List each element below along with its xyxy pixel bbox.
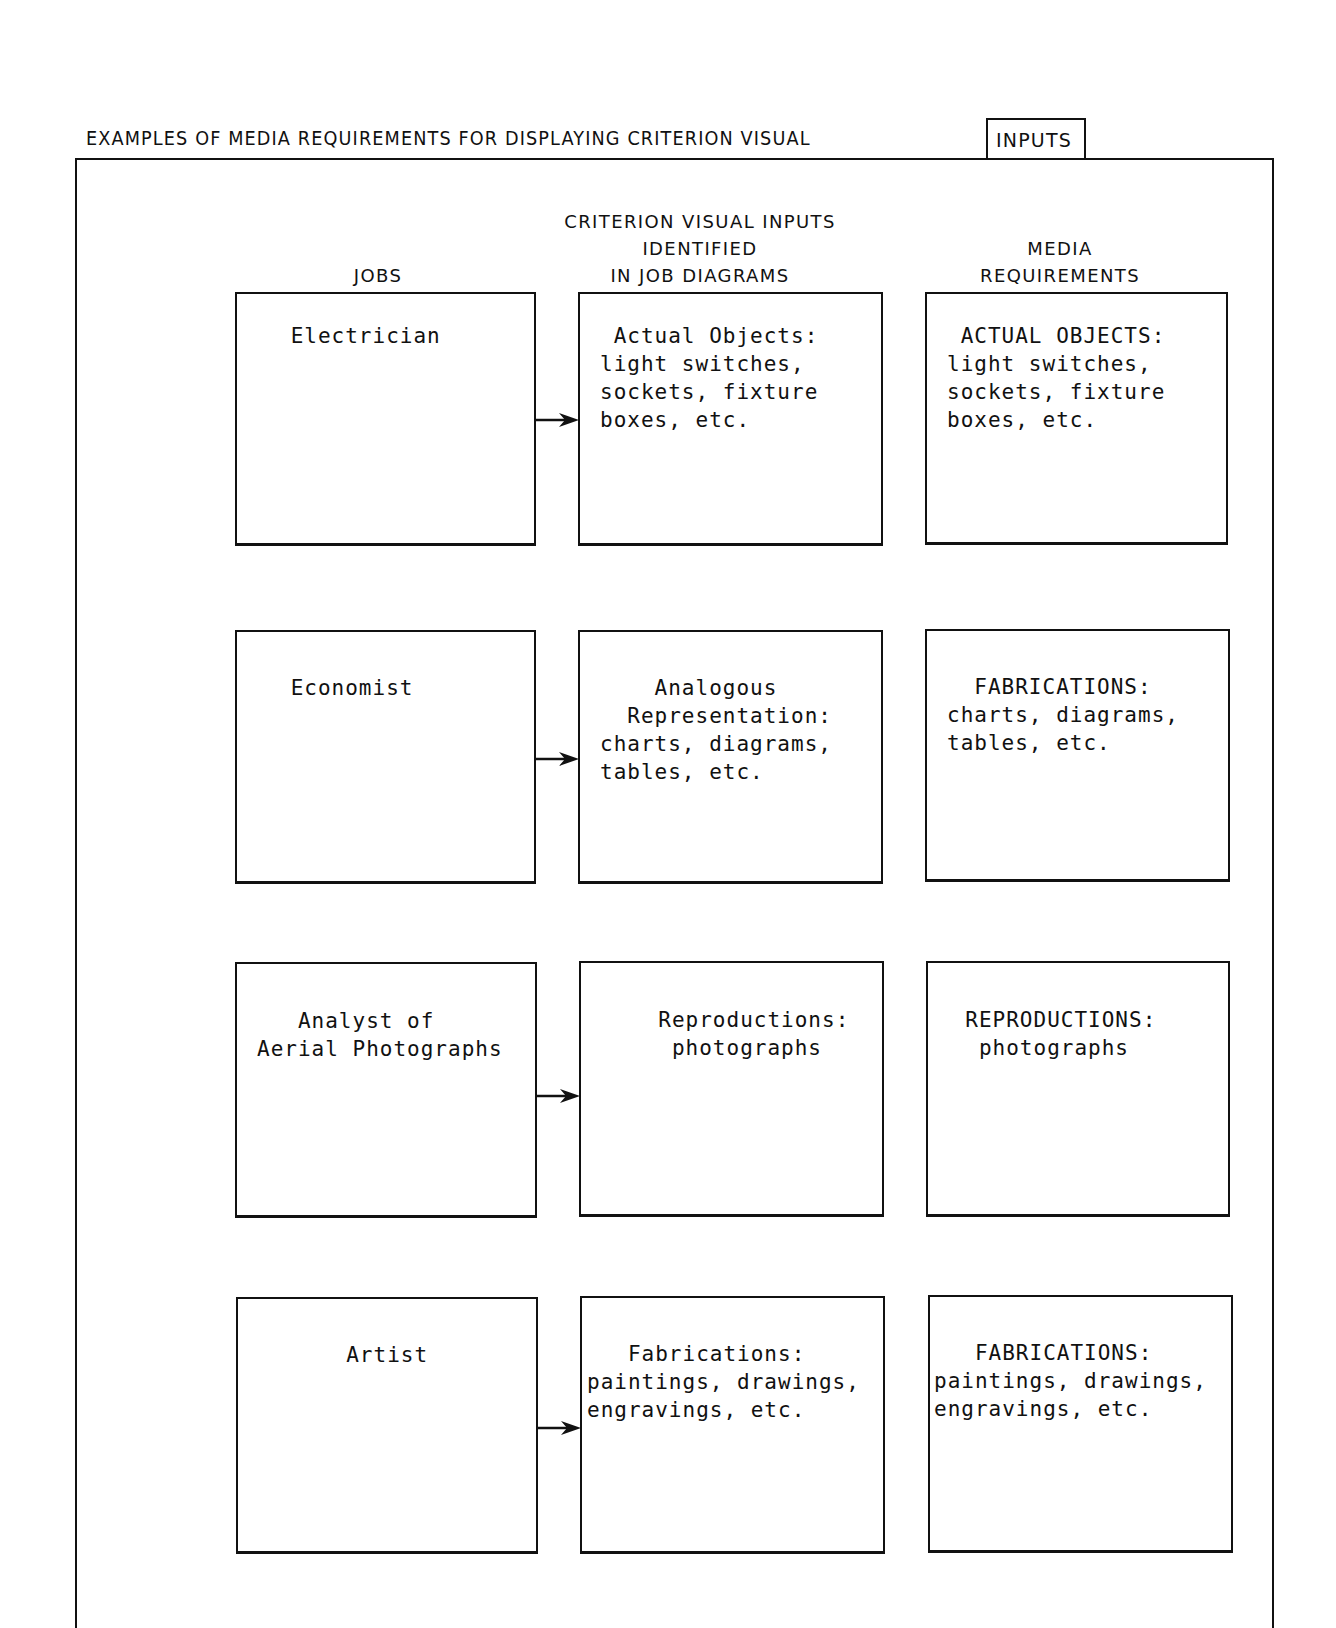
job-label: Analyst of Aerial Photographs (257, 1007, 503, 1063)
arrow-right-icon (535, 752, 579, 766)
criterion-text: Analogous Representation: charts, diagra… (600, 674, 832, 786)
title-boxed-word: INPUTS (986, 118, 1086, 158)
criterion-box: Actual Objects: light switches, sockets,… (578, 292, 883, 546)
page-title: EXAMPLES OF MEDIA REQUIREMENTS FOR DISPL… (86, 127, 811, 149)
criterion-text: Reproductions: photographs (631, 1006, 849, 1062)
job-box: Electrician (235, 292, 536, 546)
criterion-box: Reproductions: photographs (579, 961, 884, 1217)
job-label: Economist (277, 674, 413, 702)
column-header-jobs-label: JOBS (354, 265, 403, 286)
criterion-text: Fabrications: paintings, drawings, engra… (587, 1340, 860, 1424)
job-box: Economist (235, 630, 536, 884)
arrow-right-icon (537, 1421, 581, 1435)
criterion-text: Actual Objects: light switches, sockets,… (600, 322, 818, 434)
column-header-media: MEDIA REQUIREMENTS (935, 235, 1185, 289)
job-label: Artist (278, 1341, 428, 1369)
job-box: Artist (236, 1297, 538, 1554)
column-header-jobs: JOBS (338, 262, 418, 289)
criterion-header-line1: CRITERION VISUAL INPUTS (525, 208, 875, 235)
media-header-line1: MEDIA (935, 235, 1185, 262)
media-text: FABRICATIONS: paintings, drawings, engra… (934, 1339, 1207, 1423)
criterion-box: Fabrications: paintings, drawings, engra… (580, 1296, 885, 1554)
arrow-right-icon (536, 1089, 580, 1103)
media-box: FABRICATIONS: paintings, drawings, engra… (928, 1295, 1233, 1553)
arrow-right-icon (535, 413, 579, 427)
column-header-criterion: CRITERION VISUAL INPUTS IDENTIFIED IN JO… (525, 208, 875, 289)
criterion-header-line3: IN JOB DIAGRAMS (525, 262, 875, 289)
media-text: FABRICATIONS: charts, diagrams, tables, … (947, 673, 1179, 757)
job-box: Analyst of Aerial Photographs (235, 962, 537, 1218)
job-label: Electrician (277, 322, 441, 350)
media-box: ACTUAL OBJECTS: light switches, sockets,… (925, 292, 1228, 545)
media-box: FABRICATIONS: charts, diagrams, tables, … (925, 629, 1230, 882)
media-box: REPRODUCTIONS: photographs (926, 961, 1230, 1217)
criterion-box: Analogous Representation: charts, diagra… (578, 630, 883, 884)
media-header-line2: REQUIREMENTS (935, 262, 1185, 289)
media-text: REPRODUCTIONS: photographs (938, 1006, 1156, 1062)
media-text: ACTUAL OBJECTS: light switches, sockets,… (947, 322, 1165, 434)
criterion-header-line2: IDENTIFIED (525, 235, 875, 262)
